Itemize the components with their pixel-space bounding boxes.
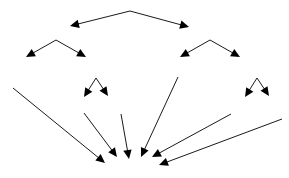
converge-arrow-6-shaft (166, 119, 282, 162)
top-arrow-left-shaft (77, 11, 130, 24)
small-right-arrow-right (257, 78, 269, 96)
converge-arrow-2-head (108, 147, 117, 157)
small-right-arrow-right-shaft (257, 78, 265, 90)
right-branch-arrow-right-shaft (210, 40, 233, 53)
right-branch-arrow-left-shaft (187, 40, 210, 53)
converge-arrow-6-head (159, 158, 169, 166)
small-left-arrow-left-shaft (88, 78, 96, 91)
converge-arrow-1 (13, 88, 105, 163)
small-left-arrow-left-head (84, 87, 92, 97)
arrow-layer (13, 11, 282, 166)
top-arrow-left-head (70, 20, 80, 28)
diagram-canvas (0, 0, 289, 178)
left-branch-arrow-left-shaft (33, 40, 56, 53)
right-branch-arrow-left-head (180, 49, 190, 57)
third-level-left-pair (84, 78, 108, 97)
left-branch-arrow-left-head (26, 49, 36, 57)
converge-arrow-5 (152, 114, 231, 157)
converge-arrow-2-shaft (84, 113, 113, 151)
small-left-arrow-left (84, 78, 96, 97)
left-branch-arrow-right-head (76, 49, 86, 57)
converge-arrow-3 (121, 114, 132, 159)
small-right-arrow-right-head (261, 86, 269, 96)
left-branch-arrow-left (26, 40, 56, 57)
arrow-diagram-svg (0, 0, 289, 178)
top-arrow-right (130, 11, 189, 29)
small-right-arrow-left-shaft (249, 78, 257, 91)
converge-arrow-4-shaft (144, 77, 178, 150)
top-arrow-left (70, 11, 130, 28)
right-branch-arrow-right-head (230, 49, 240, 57)
converge-arrow-1-head (95, 154, 105, 163)
small-left-arrow-right (96, 78, 108, 96)
left-branch-arrow-right-shaft (56, 40, 79, 53)
top-arrow-right-head (179, 21, 189, 29)
right-branch-arrow-left (180, 40, 210, 57)
left-branch-arrow-right (56, 40, 86, 57)
small-right-arrow-left (245, 78, 257, 97)
converge-arrow-3-head (123, 149, 131, 159)
converge-arrow-1-shaft (13, 88, 99, 158)
top-arrow-right-shaft (130, 11, 182, 25)
second-level-left-pair (26, 40, 86, 57)
converge-arrow-6 (159, 119, 282, 166)
top-level-double-arrow (70, 11, 189, 29)
converge-arrow-3-shaft (121, 114, 128, 152)
third-level-right-pair (245, 78, 269, 97)
right-branch-arrow-right (210, 40, 240, 57)
small-right-arrow-left-head (245, 87, 253, 97)
converge-arrow-5-shaft (159, 114, 231, 153)
small-left-arrow-right-shaft (96, 78, 104, 90)
small-left-arrow-right-head (100, 86, 108, 96)
converging-arrows (13, 77, 282, 166)
converge-arrow-5-head (152, 149, 162, 157)
second-level-right-pair (180, 40, 240, 57)
converge-arrow-4 (141, 77, 178, 157)
